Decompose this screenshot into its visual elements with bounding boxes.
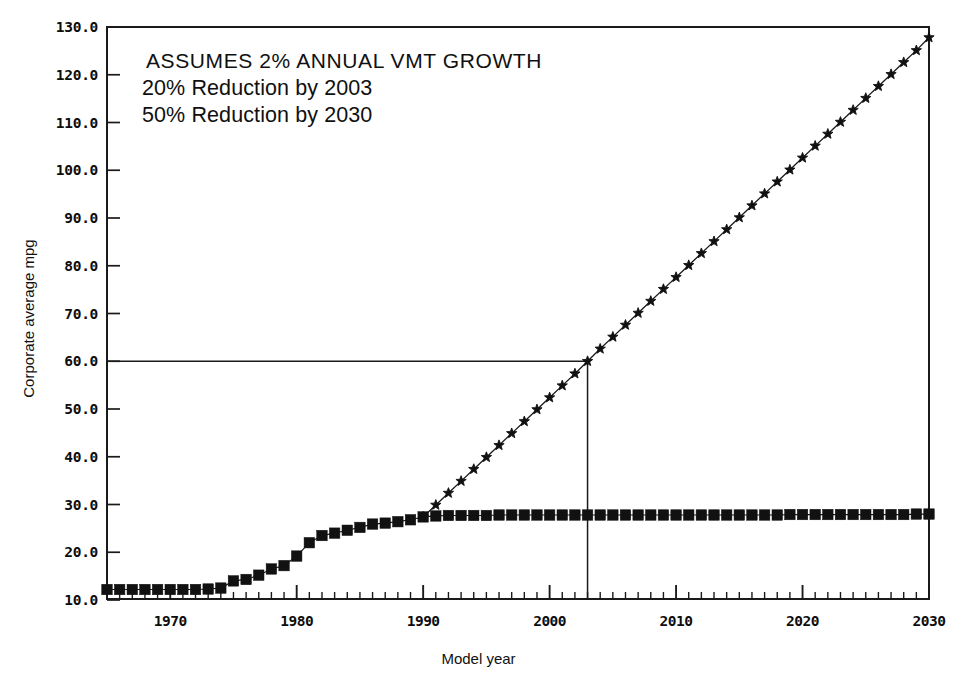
y-tick-label: 10.0 <box>64 593 98 608</box>
y-tick-label: 20.0 <box>64 545 98 560</box>
y-tick-label: 40.0 <box>64 450 98 465</box>
y-tick-label: 60.0 <box>64 354 98 369</box>
annotation-line-2: 20% Reduction by 2003 <box>142 75 666 102</box>
x-tick-label: 1980 <box>280 614 313 629</box>
x-tick-label: 2010 <box>660 614 693 629</box>
y-axis-title: Corporate average mpg <box>20 229 37 409</box>
x-tick-label: 2000 <box>533 614 566 629</box>
annotation-line-1: ASSUMES 2% ANNUAL VMT GROWTH <box>146 48 666 75</box>
x-tick-label: 1970 <box>154 614 187 629</box>
y-tick-label: 50.0 <box>64 402 98 417</box>
x-axis-tick-labels: 1970198019902000201020202030 <box>0 614 957 638</box>
chart-figure: 10.020.030.040.050.060.070.080.090.0100.… <box>0 0 957 684</box>
y-tick-label: 80.0 <box>64 259 98 274</box>
y-tick-label: 110.0 <box>56 116 98 131</box>
y-tick-label: 130.0 <box>56 20 98 35</box>
y-tick-label: 70.0 <box>64 307 98 322</box>
y-tick-label: 120.0 <box>56 68 98 83</box>
y-tick-label: 90.0 <box>64 211 98 226</box>
x-axis-title: Model year <box>0 650 957 667</box>
y-axis-tick-labels: 10.020.030.040.050.060.070.080.090.0100.… <box>0 0 98 684</box>
annotation-block: ASSUMES 2% ANNUAL VMT GROWTH 20% Reducti… <box>146 48 666 129</box>
x-tick-label: 2020 <box>786 614 819 629</box>
y-tick-label: 100.0 <box>56 163 98 178</box>
x-tick-label: 1990 <box>407 614 440 629</box>
annotation-line-3: 50% Reduction by 2030 <box>142 102 666 129</box>
x-tick-label: 2030 <box>913 614 946 629</box>
y-tick-label: 30.0 <box>64 498 98 513</box>
